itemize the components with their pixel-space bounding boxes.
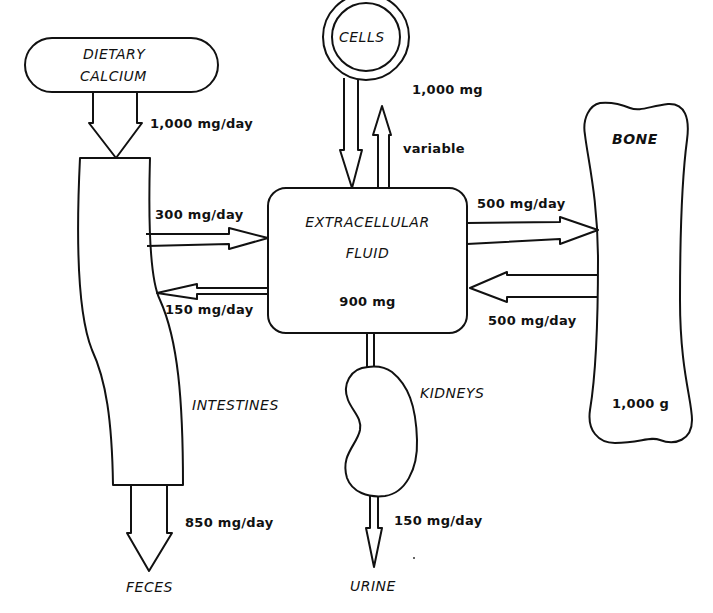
flow-diet-to-intestines-label: 1,000 mg/day — [150, 117, 253, 130]
arrow-ecf-to-cells — [373, 106, 391, 188]
arrow-cells-to-ecf — [340, 78, 362, 188]
dietary-calcium-label-line1: DIETARY — [83, 47, 145, 61]
kidneys-label: KIDNEYS — [420, 386, 484, 400]
arrow-intestines-to-ecf — [146, 228, 268, 249]
cells-label: CELLS — [339, 30, 385, 44]
bone-label: BONE — [612, 132, 658, 146]
flow-ecf-to-intestines-label: 150 mg/day — [165, 303, 253, 316]
ecf-label-line1: EXTRACELLULAR — [268, 215, 467, 229]
flow-ecf-to-bone-label: 500 mg/day — [477, 197, 565, 210]
cells-amount: 1,000 mg — [412, 83, 483, 96]
arrow-kidney-to-urine — [366, 496, 382, 567]
flow-cells-exchange-label: variable — [403, 142, 465, 155]
arrow-diet-to-intestines — [89, 92, 142, 158]
arrow-ecf-to-bone — [467, 217, 598, 244]
flow-kidneys-to-urine-label: 150 mg/day — [394, 514, 482, 527]
ecf-amount: 900 mg — [268, 295, 467, 308]
arrow-ecf-to-intestines — [157, 284, 268, 299]
connector-ecf-to-kidney — [367, 333, 374, 367]
ecf-label-line2: FLUID — [268, 246, 467, 260]
bone-shape — [584, 103, 692, 443]
intestines-label: INTESTINES — [192, 398, 279, 412]
arrow-intestines-to-feces — [127, 485, 172, 571]
arrow-bone-to-ecf — [470, 272, 598, 302]
urine-label: URINE — [350, 579, 396, 593]
kidney-shape — [345, 367, 417, 497]
flow-intestines-to-feces-label: 850 mg/day — [185, 516, 273, 529]
calcium-balance-diagram: DIETARY CALCIUM 1,000 mg/day CELLS 1,000… — [0, 0, 713, 613]
dietary-calcium-label-line2: CALCIUM — [80, 69, 147, 83]
flow-bone-to-ecf-label: 500 mg/day — [488, 314, 576, 327]
bone-amount: 1,000 g — [612, 397, 669, 410]
feces-label: FECES — [126, 580, 173, 594]
flow-intestines-to-ecf-label: 300 mg/day — [155, 208, 243, 221]
